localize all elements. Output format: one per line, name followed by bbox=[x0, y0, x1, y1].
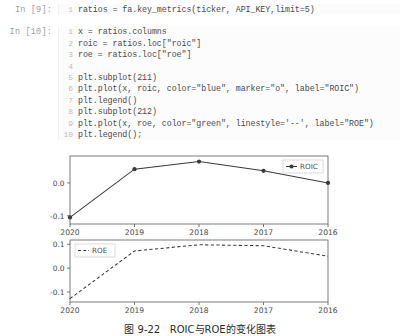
y-tick-label: 0.0 bbox=[53, 265, 65, 274]
x-tick-label: 2019 bbox=[125, 306, 144, 315]
legend-marker bbox=[289, 165, 293, 169]
x-tick-label: 2017 bbox=[254, 306, 273, 315]
x-tick-label: 2018 bbox=[189, 228, 208, 237]
figure-canvas: 0.0-0.120202019201820172016ROIC 0.10.0-0… bbox=[0, 148, 400, 320]
y-tick-label: 0.0 bbox=[53, 179, 65, 188]
figure-caption: 图 9-22 ROIC与ROE的变化图表 bbox=[0, 321, 400, 336]
code-editor-2[interactable]: x = ratios.columns roic = ratios.loc["ro… bbox=[78, 26, 400, 140]
notebook-cell-1[interactable]: In [9]: 1 ratios = fa.key_metrics(ticker… bbox=[0, 0, 400, 16]
data-point-roic bbox=[132, 168, 136, 172]
line-numbers-2: 1 2 3 4 5 6 7 8 9 10 bbox=[59, 26, 78, 140]
x-tick-label: 2020 bbox=[60, 228, 79, 237]
cell-output-figure: 0.0-0.120202019201820172016ROIC 0.10.0-0… bbox=[0, 140, 400, 336]
line-numbers-1: 1 bbox=[59, 4, 78, 15]
matplotlib-figure: 0.0-0.120202019201820172016ROIC 0.10.0-0… bbox=[0, 148, 400, 320]
data-point-roic bbox=[197, 160, 201, 164]
legend-label: ROE bbox=[92, 247, 108, 256]
legend-label: ROIC bbox=[300, 163, 318, 172]
cell-prompt-in-9: In [9]: bbox=[0, 4, 58, 16]
y-tick-label: -0.1 bbox=[50, 288, 65, 297]
cell-source-2[interactable]: 1 2 3 4 5 6 7 8 9 10 x = ratios.columns … bbox=[58, 26, 400, 140]
x-tick-label: 2016 bbox=[318, 306, 337, 315]
cell-prompt-in-10: In [10]: bbox=[0, 26, 58, 38]
y-tick-label: -0.1 bbox=[50, 212, 65, 221]
x-tick-label: 2018 bbox=[189, 306, 208, 315]
x-tick-label: 2017 bbox=[254, 228, 273, 237]
code-editor-1[interactable]: ratios = fa.key_metrics(ticker, API_KEY,… bbox=[78, 4, 400, 15]
data-point-roic bbox=[326, 181, 330, 185]
x-tick-label: 2016 bbox=[318, 228, 337, 237]
data-point-roic bbox=[68, 216, 72, 220]
data-point-roic bbox=[261, 169, 265, 173]
notebook-container: In [9]: 1 ratios = fa.key_metrics(ticker… bbox=[0, 0, 400, 336]
x-tick-label: 2020 bbox=[60, 306, 79, 315]
notebook-cell-2[interactable]: In [10]: 1 2 3 4 5 6 7 8 9 10 x = ratios… bbox=[0, 16, 400, 140]
cell-source-1[interactable]: 1 ratios = fa.key_metrics(ticker, API_KE… bbox=[58, 4, 400, 15]
subplot-roe: 0.10.0-0.120202019201820172016ROE bbox=[50, 240, 338, 315]
subplot-roic: 0.0-0.120202019201820172016ROIC bbox=[50, 156, 338, 237]
y-tick-label: 0.1 bbox=[53, 241, 65, 250]
x-tick-label: 2019 bbox=[125, 228, 144, 237]
